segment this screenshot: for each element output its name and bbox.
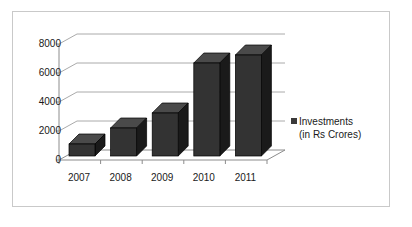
legend-label-line1: Investments — [299, 115, 361, 128]
chart-container: 8000 6000 4000 2000 0 2007 2008 2009 201… — [12, 11, 390, 207]
legend-label-line2: (in Rs Crores) — [299, 128, 361, 141]
x-tick-label-2008: 2008 — [98, 172, 144, 183]
chart-legend: Investments (in Rs Crores) — [291, 115, 387, 141]
legend-swatch-icon — [291, 118, 297, 124]
x-tick-label-2010: 2010 — [181, 172, 227, 183]
x-tick-label-2011: 2011 — [222, 172, 268, 183]
x-tick-label-2007: 2007 — [56, 172, 102, 183]
x-axis-labels: 2007 2008 2009 2010 2011 — [13, 12, 391, 208]
legend-label: Investments (in Rs Crores) — [299, 115, 361, 141]
x-tick-label-2009: 2009 — [139, 172, 185, 183]
legend-entry-investments: Investments (in Rs Crores) — [291, 115, 387, 141]
plot-area: 8000 6000 4000 2000 0 2007 2008 2009 201… — [13, 12, 391, 208]
